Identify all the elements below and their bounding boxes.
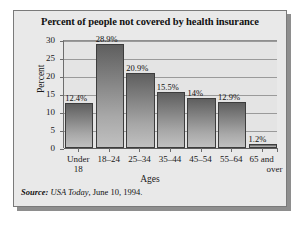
- bar: [157, 92, 185, 148]
- y-tick-mark: [60, 77, 64, 78]
- bar-value-label: 1.2%: [249, 135, 267, 144]
- x-tick-mark: [170, 148, 171, 152]
- y-tick-mark: [60, 131, 64, 132]
- y-tick-mark: [60, 95, 64, 96]
- bar-value-label: 20.9%: [126, 64, 148, 73]
- y-tick-label: 10: [31, 108, 55, 117]
- source-date: , June 10, 1994.: [89, 187, 143, 197]
- bar-value-label: 15.5%: [157, 83, 179, 92]
- bar: [65, 103, 93, 148]
- x-tick-label: 65 andover: [241, 154, 283, 174]
- y-tick-label: 15: [31, 90, 55, 99]
- bar: [218, 102, 246, 148]
- y-tick-label: 0: [31, 144, 55, 153]
- bar: [96, 44, 124, 148]
- x-tick-mark: [262, 148, 263, 152]
- x-tick-mark: [78, 148, 79, 152]
- y-tick-label: 20: [31, 72, 55, 81]
- source-note: Source: USA Today, June 10, 1994.: [21, 187, 142, 197]
- figure-frame: Percent of people not covered by health …: [13, 10, 287, 207]
- bar-value-label: 12.9%: [218, 93, 240, 102]
- bar: [126, 73, 154, 148]
- y-tick-label: 25: [31, 54, 55, 63]
- source-publication: USA Today: [48, 187, 88, 197]
- plot-area: [63, 40, 277, 148]
- x-tick-mark: [109, 148, 110, 152]
- bar-value-label: 14%: [187, 89, 203, 98]
- bar: [187, 98, 215, 148]
- chart-title: Percent of people not covered by health …: [14, 16, 286, 27]
- y-tick-mark: [60, 149, 64, 150]
- x-tick-mark: [231, 148, 232, 152]
- y-tick-mark: [60, 41, 64, 42]
- y-tick-label: 30: [31, 36, 55, 45]
- x-axis-label: Ages: [14, 174, 286, 184]
- x-tick-mark: [201, 148, 202, 152]
- y-tick-mark: [60, 59, 64, 60]
- y-tick-label: 5: [31, 126, 55, 135]
- x-tick-mark-end: [277, 148, 278, 152]
- bar-value-label: 12.4%: [65, 94, 87, 103]
- y-tick-mark: [60, 113, 64, 114]
- source-lead: Source:: [21, 187, 48, 197]
- bar-value-label: 28.9%: [96, 35, 118, 44]
- x-tick-mark: [139, 148, 140, 152]
